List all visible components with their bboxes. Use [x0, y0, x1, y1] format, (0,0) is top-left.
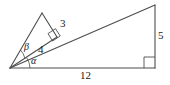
label-side-4: 4: [38, 44, 44, 55]
label-side-12: 12: [80, 70, 91, 81]
geometry-figure: 3 4 5 12 α β: [0, 0, 170, 85]
label-angle-alpha: α: [31, 56, 36, 66]
segment-small-altitude-3: [42, 13, 57, 37]
right-angle-marker-corner-icon: [144, 57, 155, 68]
label-angle-beta: β: [24, 42, 29, 52]
label-side-3: 3: [60, 18, 66, 29]
label-side-5: 5: [158, 30, 164, 41]
